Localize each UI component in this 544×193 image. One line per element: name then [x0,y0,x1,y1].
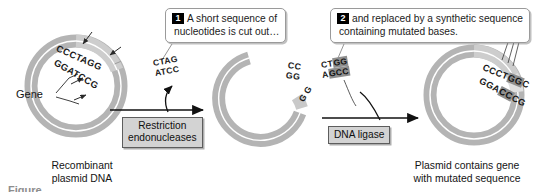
caption-left-line-1: Recombinant [12,160,152,173]
callout-2-line-1: and replaced by a synthetic sequence [352,13,523,24]
step-badge-2: 2 [337,13,349,24]
caption-recombinant-plasmid: Recombinant plasmid DNA [12,160,152,185]
label-dna-ligase: DNA ligase [328,126,390,144]
synthetic-fragment-leader [344,80,356,106]
caption-mutated-plasmid: Plasmid contains gene with mutated seque… [392,160,542,185]
callout-1-line-2: nucleotides is cut out… [172,26,279,39]
callout-1-line-1: A short sequence of [187,13,277,24]
callout-step-2: 2and replaced by a synthetic sequence co… [330,8,530,43]
restriction-line-1: Restriction [128,120,197,132]
callout-2-line-2: containing mutated bases. [337,26,523,39]
label-gene: Gene [16,88,43,100]
caption-right-line-2: with mutated sequence [392,173,542,186]
figure-site-directed-mutagenesis: 1A short sequence of nucleotides is cut … [0,0,544,193]
callout-step-1: 1A short sequence of nucleotides is cut … [165,8,286,43]
caption-right-line-1: Plasmid contains gene [392,160,542,173]
restriction-line-2: endonucleases [128,132,197,144]
caption-figure-number-cutoff: Figure [8,184,42,192]
process-arrow-ligase [322,92,418,120]
sequence-plasmid2-bottom-left: GG [285,70,301,82]
label-restriction-endonucleases: Restriction endonucleases [122,117,203,148]
step-badge-1: 1 [172,13,184,24]
